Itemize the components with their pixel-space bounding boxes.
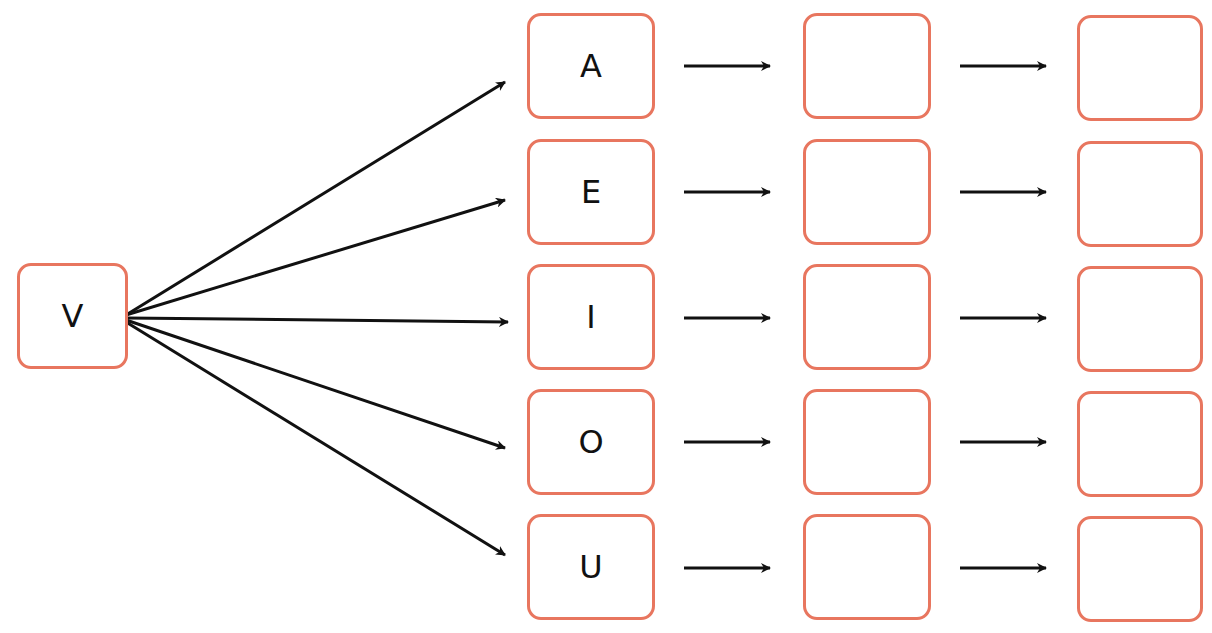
blank-box[interactable] xyxy=(803,13,931,119)
blank-box[interactable] xyxy=(803,264,931,370)
blank-box[interactable] xyxy=(1077,15,1203,121)
arrow-v-to-i xyxy=(126,318,508,322)
letter-box-i: I xyxy=(527,264,655,370)
letter-label: U xyxy=(579,548,602,586)
arrow-v-to-o xyxy=(126,320,505,448)
letter-box-a: A xyxy=(527,13,655,119)
source-label: V xyxy=(62,297,84,335)
blank-box[interactable] xyxy=(1077,141,1203,247)
blank-box[interactable] xyxy=(803,139,931,245)
arrow-v-to-a xyxy=(126,82,505,315)
blank-box[interactable] xyxy=(1077,266,1203,372)
blank-box[interactable] xyxy=(803,514,931,620)
arrow-v-to-u xyxy=(126,322,505,555)
blank-box[interactable] xyxy=(1077,516,1203,622)
letter-label: I xyxy=(586,298,595,336)
blank-box[interactable] xyxy=(1077,391,1203,497)
letter-label: O xyxy=(578,423,603,461)
letter-label: A xyxy=(580,47,602,85)
letter-box-o: O xyxy=(527,389,655,495)
letter-box-u: U xyxy=(527,514,655,620)
blank-box[interactable] xyxy=(803,389,931,495)
letter-label: E xyxy=(581,173,601,211)
arrow-v-to-e xyxy=(126,200,505,315)
source-box-v: V xyxy=(17,263,128,369)
letter-box-e: E xyxy=(527,139,655,245)
